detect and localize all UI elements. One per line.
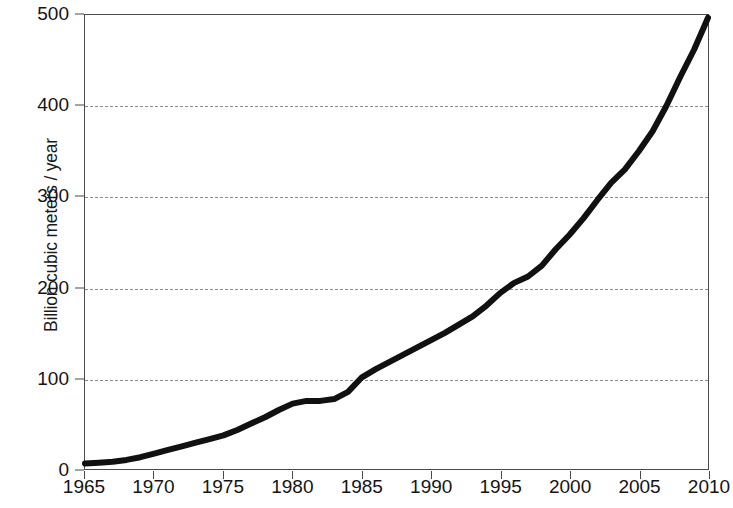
y-tick-mark-400 <box>75 105 84 106</box>
y-tick-mark-500 <box>75 14 84 15</box>
y-tick-label-400: 400 <box>9 94 69 116</box>
y-tick-mark-0 <box>75 470 84 471</box>
x-tick-label-1965: 1965 <box>44 476 124 498</box>
y-axis-title: Billion cubic meters / year <box>34 0 68 470</box>
plot-area <box>84 14 709 470</box>
y-tick-label-100: 100 <box>9 368 69 390</box>
chart-figure: Billion cubic meters / year 010020030040… <box>0 0 733 508</box>
x-tick-label-2010: 2010 <box>669 476 733 498</box>
data-series-line-chart <box>85 15 708 469</box>
x-tick-label-1970: 1970 <box>113 476 193 498</box>
y-tick-label-500: 500 <box>9 3 69 25</box>
y-tick-label-200: 200 <box>9 277 69 299</box>
x-tick-label-1995: 1995 <box>461 476 541 498</box>
x-tick-label-2005: 2005 <box>600 476 680 498</box>
x-tick-label-1985: 1985 <box>322 476 402 498</box>
y-tick-mark-100 <box>75 378 84 379</box>
y-tick-label-300: 300 <box>9 185 69 207</box>
y-tick-mark-200 <box>75 287 84 288</box>
x-tick-label-1990: 1990 <box>391 476 471 498</box>
series-polyline-annual-volume <box>85 18 708 464</box>
x-tick-label-1975: 1975 <box>183 476 263 498</box>
x-tick-label-2000: 2000 <box>530 476 610 498</box>
y-tick-mark-300 <box>75 196 84 197</box>
x-tick-label-1980: 1980 <box>252 476 332 498</box>
